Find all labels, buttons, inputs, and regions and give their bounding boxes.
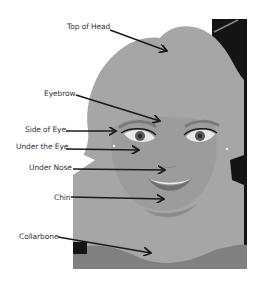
face-diagram: Top of Head Eyebrow Side of Eye Under th… xyxy=(0,0,259,285)
label-under-the-eye: Under the Eye xyxy=(16,142,68,151)
arrow-under-the-eye xyxy=(66,149,139,150)
label-chin: Chin xyxy=(54,193,70,202)
label-eyebrow: Eyebrow xyxy=(44,89,76,98)
arrow-under-nose xyxy=(73,169,165,170)
label-under-nose: Under Nose xyxy=(29,163,72,172)
label-side-of-eye: Side of Eye xyxy=(25,125,66,134)
label-top-of-head: Top of Head xyxy=(67,22,110,31)
label-collarbone: Collarbone xyxy=(19,232,58,241)
